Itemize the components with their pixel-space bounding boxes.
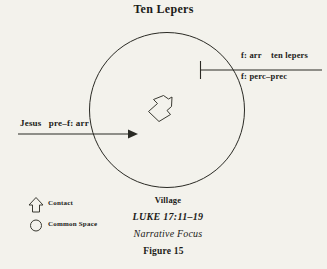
jesus-entry-label: Jesus pre–f: arr <box>20 119 89 128</box>
legend-up-arrow-icon <box>29 198 43 213</box>
page-title: Ten Lepers <box>0 3 327 16</box>
figure-page: Ten Lepers Jesus pre–f: arr f: arr ten l… <box>0 0 327 269</box>
departure-label-below: f: perc–prec <box>241 72 287 81</box>
village-label: Village <box>108 196 228 205</box>
legend-item-common-space-label: Common Space <box>48 221 97 228</box>
legend-item-contact-label: Contact <box>48 200 73 207</box>
contact-arrow-icon <box>149 96 173 122</box>
narrative-focus-label: Narrative Focus <box>98 229 238 240</box>
departure-label-above: f: arr ten lepers <box>241 51 308 60</box>
scripture-reference: LUKE 17:11–19 <box>98 212 238 223</box>
legend-circle-icon <box>31 220 42 231</box>
figure-caption: Figure 15 <box>0 247 327 257</box>
jesus-entry-arrow-head <box>128 130 138 139</box>
